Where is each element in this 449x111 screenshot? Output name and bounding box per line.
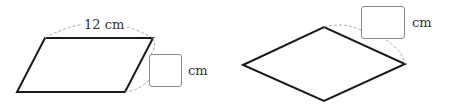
rhombus-answer-box[interactable] [361, 6, 405, 39]
parallelogram-unit-label: cm [188, 63, 208, 78]
rhombus-unit-label: cm [412, 15, 432, 30]
parallelogram-shape [17, 38, 153, 92]
parallelogram-answer-box[interactable] [149, 54, 182, 87]
top-side-length-label: 12 cm [82, 17, 126, 32]
